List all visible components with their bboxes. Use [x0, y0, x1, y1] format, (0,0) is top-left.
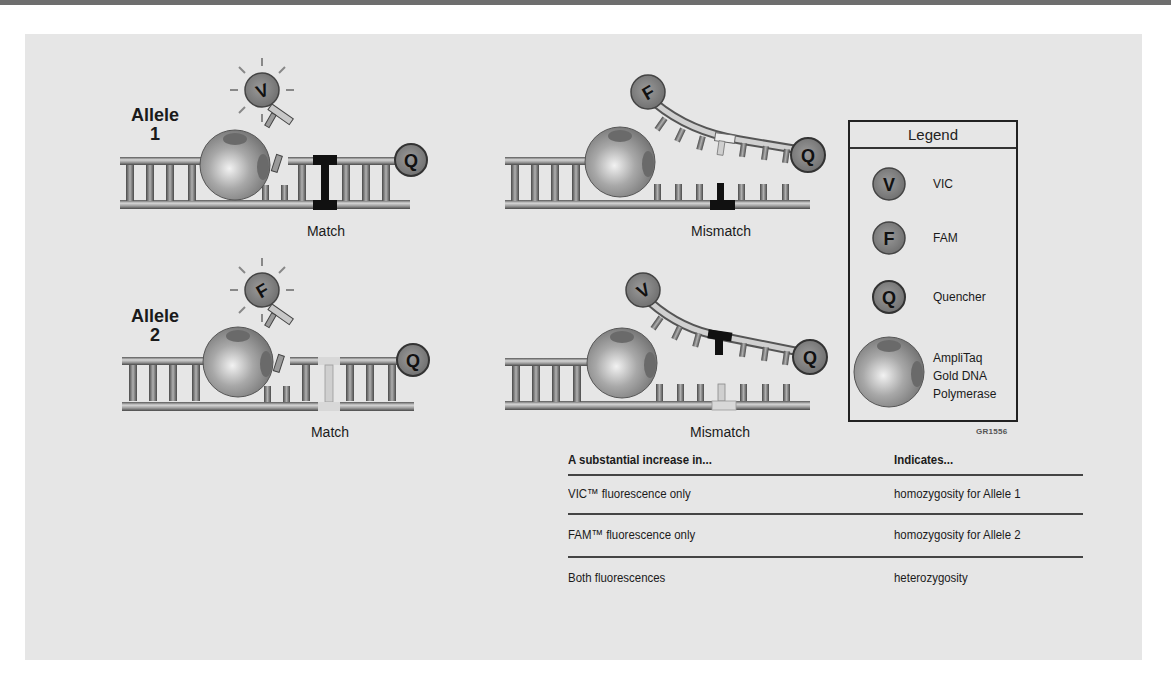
table-row: VIC™ fluorescence only homozygosity for …	[568, 483, 1083, 503]
allele-word: Allele	[122, 106, 188, 125]
panel-allele-2-mismatch: V Q	[505, 273, 827, 410]
mismatch-marker	[712, 401, 736, 410]
table-cell: Both fluorescences	[568, 570, 855, 585]
table-divider	[568, 513, 1083, 515]
table-header-row: A substantial increase in... Indicates..…	[568, 449, 1083, 470]
match-marker	[313, 155, 337, 165]
panel-allele-1-mismatch: F Q	[505, 75, 825, 210]
legend-polymerase-line: Gold DNA	[933, 367, 996, 385]
allele-number: 2	[122, 326, 188, 345]
allele-2-label: Allele 2	[122, 307, 188, 345]
table-cell: VIC™ fluorescence only	[568, 486, 855, 501]
legend-label-polymerase: AmpliTaq Gold DNA Polymerase	[933, 349, 996, 403]
allele-1-label: Allele 1	[122, 106, 188, 144]
figure-id-label: GR1556	[976, 427, 1008, 436]
caption-allele-2-mismatch: Mismatch	[690, 424, 750, 440]
table-divider	[568, 474, 1083, 476]
legend-title: Legend	[850, 122, 1016, 149]
released-fam-dye-icon: F	[230, 258, 294, 328]
mismatch-marker	[717, 183, 724, 200]
table-cell: homozygosity for Allele 2	[894, 527, 1060, 542]
match-marker	[318, 357, 340, 365]
table-row: FAM™ fluorescence only homozygosity for …	[568, 524, 1083, 544]
released-vic-dye-icon: V	[230, 58, 294, 128]
allele-word: Allele	[122, 307, 188, 326]
quencher-icon: Q	[395, 144, 427, 176]
legend-polymerase-line: Polymerase	[933, 385, 996, 403]
table-divider	[568, 556, 1083, 558]
table-cell: homozygosity for Allele 1	[894, 486, 1060, 501]
legend-polymerase-line: AmpliTaq	[933, 349, 996, 367]
table-row: Both fluorescences heterozygosity	[568, 567, 1083, 587]
legend-label-quencher: Quencher	[933, 290, 986, 304]
caption-allele-2-match: Match	[311, 424, 349, 440]
caption-allele-1-mismatch: Mismatch	[691, 223, 751, 239]
polymerase-icon	[200, 130, 270, 200]
svg-text:Q: Q	[404, 151, 418, 171]
table-header-cell: A substantial increase in...	[568, 452, 855, 467]
table-cell: heterozygosity	[894, 570, 1060, 585]
legend-label-fam: FAM	[933, 231, 958, 245]
svg-text:Q: Q	[803, 348, 817, 368]
svg-text:Q: Q	[801, 146, 815, 166]
table-header-cell: Indicates...	[894, 452, 1060, 467]
allele-number: 1	[122, 125, 188, 144]
svg-text:Q: Q	[406, 351, 420, 371]
caption-allele-1-match: Match	[307, 223, 345, 239]
interpretation-table: A substantial increase in... Indicates..…	[568, 449, 1083, 587]
legend-label-vic: VIC	[933, 177, 953, 191]
table-cell: FAM™ fluorescence only	[568, 527, 855, 542]
